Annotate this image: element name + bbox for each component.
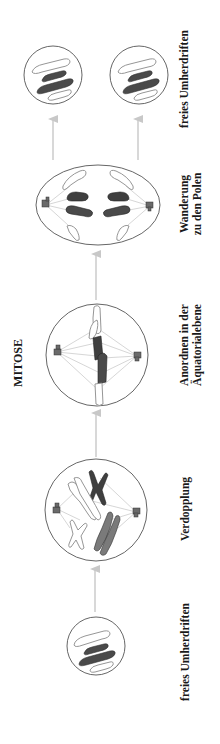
duplication-cell xyxy=(45,459,147,561)
metaphase-cell xyxy=(46,304,148,406)
diagram-title: MITOSE xyxy=(12,337,25,389)
stage-2-label-line-1: Verdopplung xyxy=(179,473,192,545)
stage-3-label-line-1: Anordnen in der xyxy=(178,294,191,396)
daughter-cell-right xyxy=(110,46,168,104)
stage-4-label-line-2: zu den Polen xyxy=(191,167,204,241)
stage-5-label-line-1: freies Umherdriften xyxy=(178,22,191,136)
stage-4-label-line-1: Wanderung xyxy=(178,167,191,241)
stage-1-label-line-1: freies Umherdriften xyxy=(179,595,192,709)
title-text: MITOSE xyxy=(12,337,25,389)
stage-label-2: Verdopplung xyxy=(179,473,192,545)
anaphase-cell xyxy=(36,165,160,245)
stage-label-4: Wanderung zu den Polen xyxy=(178,167,204,241)
stage-3-label-line-2: Äquatorialebene xyxy=(191,294,204,396)
interphase-cell xyxy=(67,617,125,675)
stage-label-3: Anordnen in der Äquatorialebene xyxy=(178,294,204,396)
stage-label-5: freies Umherdriften xyxy=(178,22,191,136)
daughter-cell-left xyxy=(24,46,82,104)
stage-label-1: freies Umherdriften xyxy=(179,595,192,709)
